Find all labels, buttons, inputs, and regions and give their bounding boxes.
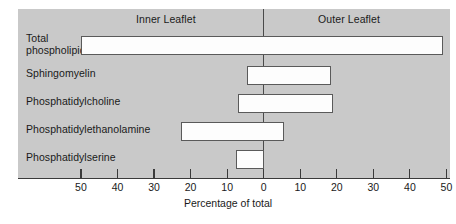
row-label-line1: Phosphatidylserine [26, 152, 116, 164]
x-axis-tick [227, 169, 228, 178]
row-label-0: Totalphospholipid [26, 33, 86, 56]
x-axis-tick-label: 30 [141, 181, 167, 193]
x-axis-tick-label: 50 [68, 181, 94, 193]
column-header-inner-leaflet: Inner Leaflet [136, 13, 196, 25]
row-label-line1: Total [26, 33, 86, 45]
row-label-2: Phosphatidylcholine [26, 96, 120, 108]
row-label-line1: Phosphatidylethanolamine [26, 124, 150, 136]
chart-bar [181, 122, 283, 141]
x-axis-tick [300, 169, 301, 178]
x-axis-tick [190, 169, 191, 178]
x-axis-tick-label: 40 [397, 181, 423, 193]
column-header-outer-leaflet: Outer Leaflet [318, 13, 380, 25]
x-axis-tick [409, 169, 410, 178]
x-axis-tick [153, 169, 154, 178]
x-axis-tick-label: 10 [287, 181, 313, 193]
x-axis-title: Percentage of total [0, 197, 456, 209]
x-axis-line [18, 178, 450, 179]
x-axis-tick-label: 50 [433, 181, 456, 193]
row-label-4: Phosphatidylserine [26, 152, 116, 164]
chart-bar [236, 150, 263, 169]
chart-bar [238, 94, 333, 113]
x-axis-tick-label: 20 [178, 181, 204, 193]
chart-bar [81, 36, 443, 55]
row-label-line2: phospholipid [26, 45, 86, 57]
row-label-line1: Sphingomyelin [26, 68, 96, 80]
x-axis-tick [336, 169, 337, 178]
x-axis-tick [117, 169, 118, 178]
x-axis-tick [373, 169, 374, 178]
row-label-3: Phosphatidylethanolamine [26, 124, 150, 136]
row-label-line1: Phosphatidylcholine [26, 96, 120, 108]
chart-figure: Inner Leaflet Outer Leaflet Totalphospho… [0, 0, 456, 224]
x-axis-tick-label: 40 [105, 181, 131, 193]
leaflet-header-band: Inner Leaflet Outer Leaflet [18, 10, 450, 31]
x-axis-tick-label: 0 [251, 181, 277, 193]
row-label-1: Sphingomyelin [26, 68, 96, 80]
x-axis-tick [80, 169, 81, 178]
chart-bar [247, 66, 331, 85]
x-axis-tick [263, 169, 264, 178]
x-axis-tick [446, 169, 447, 178]
x-axis-tick-label: 30 [360, 181, 386, 193]
x-axis-tick-label: 10 [214, 181, 240, 193]
x-axis-tick-label: 20 [324, 181, 350, 193]
